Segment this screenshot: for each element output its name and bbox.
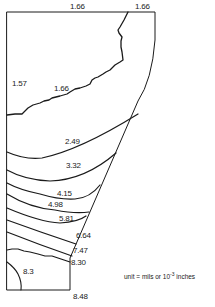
label-5-81: 5.81 (59, 215, 74, 223)
label-top-right: 1.66 (135, 3, 150, 11)
contour-8-3-inner (7, 262, 21, 290)
contour-7-47 (7, 232, 72, 256)
contour-5-81 (7, 208, 86, 223)
label-3-32: 3.32 (66, 162, 81, 170)
label-inner: 1.66 (54, 85, 69, 93)
contour-diagram: 1.66 1.66 1.57 1.66 2.49 3.32 4.15 4.98 … (0, 0, 215, 307)
label-4-15: 4.15 (57, 190, 72, 198)
contour-6-64 (7, 220, 76, 244)
unit-note: unit = mils or 10-3 inches (124, 274, 195, 281)
label-8-48: 8.48 (73, 293, 88, 301)
label-4-98: 4.98 (48, 201, 63, 209)
label-8-30: 8.30 (71, 259, 86, 267)
contour-1-66-jagged (7, 12, 128, 115)
contour-4-15 (7, 183, 100, 199)
label-left: 1.57 (12, 80, 27, 88)
unit-note-suffix: inches (175, 273, 196, 280)
label-top-mid: 1.66 (70, 3, 85, 11)
unit-note-prefix: unit = mils or 10 (124, 273, 170, 280)
contour-8-30 (7, 249, 70, 262)
label-2-49: 2.49 (65, 138, 80, 146)
label-6-64: 6.64 (76, 232, 91, 240)
label-8-3: 8.3 (23, 268, 34, 276)
unit-note-exponent: -3 (170, 271, 174, 277)
label-7-47: 7.47 (73, 247, 88, 255)
contour-lines-svg (0, 0, 215, 307)
